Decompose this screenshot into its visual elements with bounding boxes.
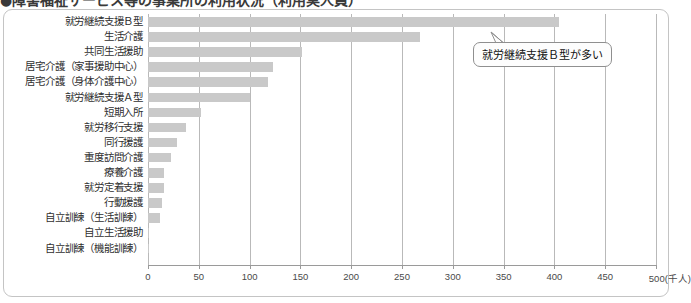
bar-row: 同行援護 [0,135,675,150]
callout-annotation: 就労継続支援Ｂ型が多い [473,42,612,67]
bar [148,153,171,163]
bar [148,77,268,87]
bar [148,32,420,42]
bar [148,108,201,118]
axis-tick-label: 0 [145,271,150,282]
axis-tick [402,265,403,269]
category-label: 就労定着支援 [0,180,143,195]
category-label: 同行援護 [0,135,143,150]
bar-row: 居宅介護（身体介護中心） [0,74,675,89]
axis-tick [351,265,352,269]
axis-tick-label: 400 [546,271,562,282]
bar-row: 療養介護 [0,165,675,180]
bar-row: 短期入所 [0,105,675,120]
axis-tick-label: 500(千人) [649,271,691,285]
bar-row: 重度訪問介護 [0,150,675,165]
page-title: ●障害福祉サービス等の事業所の利用状況（利用実人員） [0,0,362,9]
category-label: 居宅介護（身体介護中心） [0,74,143,89]
axis-tick [504,265,505,269]
bar-row: 自立訓練（生活訓練） [0,210,675,225]
category-label: 就労継続支援Ｂ型 [0,14,143,29]
bar [148,213,160,223]
axis-tick [453,265,454,269]
bar [148,47,302,57]
bar-row: 就労継続支援Ａ型 [0,90,675,105]
bar [148,62,273,72]
axis-tick-label: 50 [194,271,205,282]
bar-row: 自立生活援助 [0,225,675,240]
category-label: 自立訓練（機能訓練） [0,241,143,256]
bar-row: 就労継続支援Ｂ型 [0,14,675,29]
bar-row: 就労移行支援 [0,120,675,135]
category-label: 療養介護 [0,165,143,180]
bar [148,17,559,27]
category-label: 生活介護 [0,29,143,44]
category-label: 居宅介護（家事援助中心） [0,59,143,74]
bar [148,93,250,103]
category-label: 自立訓練（生活訓練） [0,210,143,225]
axis-tick-label: 450 [597,271,613,282]
axis-tick-label: 200 [343,271,359,282]
category-label: 短期入所 [0,105,143,120]
axis-tick-label: 350 [496,271,512,282]
axis-tick [554,265,555,269]
category-label: 自立生活援助 [0,225,143,240]
category-label: 重度訪問介護 [0,150,143,165]
bar [148,228,149,238]
axis-tick-label: 300 [445,271,461,282]
axis-tick [148,265,149,269]
bar-row: 就労定着支援 [0,180,675,195]
category-label: 就労移行支援 [0,120,143,135]
bar-row: 行動援護 [0,195,675,210]
axis-tick [199,265,200,269]
axis-tick-label: 100 [242,271,258,282]
axis-tick [250,265,251,269]
bar [148,168,164,178]
bar-row: 自立訓練（機能訓練） [0,241,675,256]
axis-tick-label: 250 [394,271,410,282]
bar [148,244,149,254]
category-label: 行動援護 [0,195,143,210]
axis-tick [300,265,301,269]
axis-tick [605,265,606,269]
category-label: 共同生活援助 [0,44,143,59]
bar [148,183,164,193]
category-label: 就労継続支援Ａ型 [0,90,143,105]
axis-tick [656,265,657,269]
chart-title-strip: ●障害福祉サービス等の事業所の利用状況（利用実人員） [0,0,675,9]
bar [148,198,162,208]
bar [148,138,177,148]
bar [148,123,186,133]
axis-tick-label: 150 [292,271,308,282]
